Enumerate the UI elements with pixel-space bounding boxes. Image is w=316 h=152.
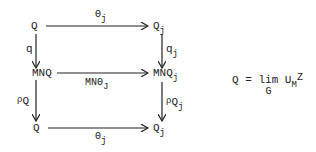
- mn-theta-symbol: MNΘ: [85, 77, 103, 88]
- equation: Q = lim G UMZ: [232, 75, 303, 87]
- node-bot-left: Q: [33, 123, 40, 134]
- arrow-bot-label: Θj: [95, 131, 106, 143]
- lim-text: lim: [258, 74, 278, 86]
- arrow-mid-label: MNΘJ: [85, 77, 108, 89]
- node-bot-right-label: Q: [153, 122, 160, 134]
- node-top-left: Q: [31, 21, 38, 32]
- lim-operator: lim G: [258, 75, 278, 86]
- lim-subscript: G: [265, 86, 271, 97]
- node-top-right-sub: j: [160, 26, 165, 36]
- arrow-bot-sub: j: [101, 136, 106, 146]
- node-mid-left-label: MNQ: [32, 67, 52, 79]
- node-top-right-label: Q: [153, 20, 160, 32]
- arrow-left-lower-label: ρQ: [17, 96, 29, 108]
- arrow-right-upper-sub: j: [173, 49, 178, 59]
- arrow-left-lower-sub: Q: [22, 95, 29, 107]
- node-bot-right: Qj: [153, 123, 165, 135]
- node-bot-right-sub: j: [160, 128, 165, 138]
- node-mid-right: MNQj: [153, 68, 178, 80]
- node-mid-left: MNQ: [32, 68, 52, 79]
- node-bot-left-label: Q: [33, 122, 40, 134]
- node-mid-right-sub: j: [173, 73, 178, 83]
- equation-rhs-sup: Z: [297, 72, 303, 83]
- arrow-mid-sub: J: [103, 82, 108, 92]
- node-top-right: Qj: [153, 21, 165, 33]
- rho-symbol: ρ: [17, 95, 22, 105]
- arrow-right-upper-label: qj: [166, 44, 178, 56]
- rho-symbol: ρ: [166, 96, 171, 106]
- node-top-left-label: Q: [31, 20, 38, 32]
- equation-equals: =: [245, 74, 252, 86]
- q-symbol: q: [166, 43, 173, 55]
- equation-lhs: Q: [232, 74, 239, 86]
- arrow-right-lower-subsub: j: [178, 102, 183, 112]
- q-symbol: q: [26, 43, 33, 55]
- arrow-right-lower-label: ρQj: [166, 97, 183, 109]
- arrow-top-sub: j: [101, 14, 106, 24]
- arrow-left-upper-label: q: [26, 44, 33, 55]
- node-mid-right-label: MNQ: [153, 67, 173, 79]
- arrow-top-label: Θj: [95, 9, 106, 21]
